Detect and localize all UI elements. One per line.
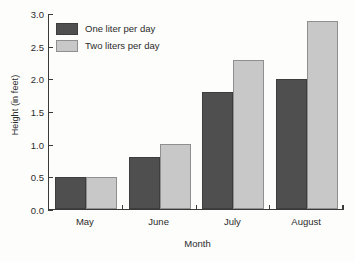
x-axis-label-july: July <box>196 216 270 227</box>
y-axis-tick-label: 3.0 <box>31 9 44 20</box>
legend-item-2: Two liters per day <box>56 38 159 53</box>
bar-chart: Height (in feet) 0.00.51.01.52.02.53.0 M… <box>0 0 355 262</box>
y-axis-tick-label: 2.5 <box>31 41 44 52</box>
bar-june-series-1 <box>129 157 160 209</box>
legend: One liter per dayTwo liters per day <box>56 21 159 55</box>
bar-june-series-2 <box>160 144 191 209</box>
legend-swatch-2 <box>56 40 78 52</box>
y-axis-tick-label: 0.5 <box>31 172 44 183</box>
bar-july-series-1 <box>202 92 233 209</box>
bar-group <box>202 14 264 209</box>
y-axis-tick-label: 1.5 <box>31 107 44 118</box>
legend-item-1: One liter per day <box>56 21 159 36</box>
x-axis-label-june: June <box>122 216 196 227</box>
x-axis-title: Month <box>48 238 347 249</box>
bar-may-series-1 <box>55 177 86 210</box>
bar-july-series-2 <box>233 60 264 210</box>
bar-may-series-2 <box>86 177 117 210</box>
bar-august-series-1 <box>276 79 307 209</box>
y-axis-tick-label: 1.0 <box>31 139 44 150</box>
legend-label-1: One liter per day <box>85 23 155 34</box>
legend-label-2: Two liters per day <box>85 40 159 51</box>
bar-august-series-2 <box>307 21 338 210</box>
y-axis-tick: 0.0 <box>48 210 53 211</box>
x-axis-tick <box>343 205 344 210</box>
y-axis-title: Height (in feet) <box>4 0 26 210</box>
x-axis-label-august: August <box>269 216 343 227</box>
bar-group <box>276 14 338 209</box>
legend-swatch-1 <box>56 23 78 35</box>
x-axis-label-may: May <box>48 216 122 227</box>
y-axis-tick-label: 0.0 <box>31 205 44 216</box>
y-axis-title-text: Height (in feet) <box>10 75 20 136</box>
y-axis-tick-label: 2.0 <box>31 74 44 85</box>
